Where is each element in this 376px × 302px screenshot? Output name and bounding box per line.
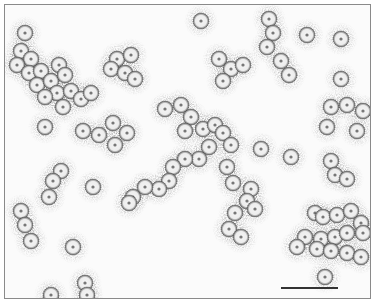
scale-bar bbox=[281, 287, 338, 289]
micrograph-frame bbox=[4, 4, 371, 299]
micrograph-image bbox=[5, 5, 370, 298]
